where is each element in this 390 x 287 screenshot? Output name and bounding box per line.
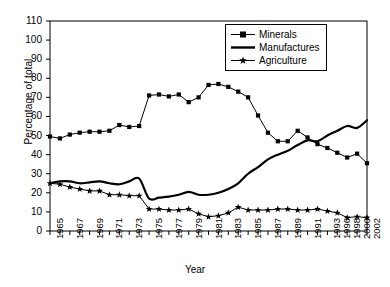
data-point-marker: [266, 131, 270, 135]
y-tick-label: 30: [12, 168, 42, 179]
y-tick-label: 10: [12, 206, 42, 217]
x-tick-label: 1981: [213, 225, 224, 239]
data-point-marker: [96, 187, 103, 193]
x-tick-label: 1969: [94, 225, 105, 239]
data-point-marker: [136, 192, 143, 198]
data-point-marker: [296, 129, 300, 133]
data-point-marker: [116, 191, 123, 197]
data-point-marker: [157, 92, 161, 96]
data-point-marker: [275, 206, 282, 212]
data-point-marker: [236, 90, 240, 94]
x-tick-label: 1987: [272, 225, 283, 239]
data-point-marker: [187, 100, 191, 104]
data-point-marker: [246, 95, 250, 99]
data-point-marker: [106, 191, 113, 197]
data-point-marker: [137, 124, 141, 128]
data-point-marker: [315, 142, 319, 146]
y-tick-label: 20: [12, 187, 42, 198]
legend-item-minerals: Minerals: [230, 28, 320, 41]
data-point-marker: [78, 131, 82, 135]
legend-label: Agriculture: [256, 55, 307, 66]
series-line: [50, 84, 367, 163]
agriculture-line-swatch-icon: [230, 54, 256, 67]
data-point-marker: [48, 134, 52, 138]
data-point-marker: [255, 207, 262, 213]
series-minerals: [48, 82, 369, 165]
y-tick-label: 70: [12, 91, 42, 102]
x-tick-label: 1975: [153, 225, 164, 239]
x-tick-label: 1967: [74, 225, 85, 239]
data-point-marker: [265, 207, 272, 213]
data-point-marker: [335, 151, 339, 155]
x-tick-label: 1985: [252, 225, 263, 239]
legend-item-agriculture: Agriculture: [230, 54, 320, 67]
data-point-marker: [276, 139, 280, 143]
legend-label: Manufactures: [256, 42, 320, 53]
data-point-marker: [107, 129, 111, 133]
data-point-marker: [345, 155, 349, 159]
data-point-marker: [167, 94, 171, 98]
data-point-marker: [226, 85, 230, 89]
minerals-line-swatch-icon: [230, 28, 256, 41]
x-tick-label: 1973: [133, 225, 144, 239]
data-point-marker: [355, 152, 359, 156]
y-tick-label: 60: [12, 110, 42, 121]
x-tick-label: 2002: [371, 225, 382, 239]
data-point-marker: [216, 82, 220, 86]
x-tick-label: 1965: [54, 225, 65, 239]
chart-container: Percentage of total Year 010203040506070…: [0, 0, 390, 287]
data-point-marker: [126, 192, 133, 198]
data-point-marker: [196, 95, 200, 99]
data-point-marker: [324, 207, 331, 213]
data-point-marker: [206, 83, 210, 87]
data-point-marker: [175, 207, 182, 213]
x-tick-label: 1971: [113, 225, 124, 239]
data-point-marker: [117, 123, 121, 127]
y-tick-label: 0: [12, 225, 42, 236]
data-point-marker: [66, 184, 73, 190]
legend: Minerals Manufactures Agriculture: [225, 24, 327, 71]
y-tick-label: 50: [12, 130, 42, 141]
data-point-marker: [256, 113, 260, 117]
data-point-marker: [185, 206, 192, 212]
data-point-marker: [305, 135, 309, 139]
data-point-marker: [314, 206, 321, 212]
x-tick-label: 1977: [173, 225, 184, 239]
manufactures-line-swatch-icon: [230, 41, 256, 54]
x-tick-label: 1979: [193, 225, 204, 239]
data-point-marker: [147, 93, 151, 97]
y-tick-label: 40: [12, 149, 42, 160]
x-tick-label: 1989: [292, 225, 303, 239]
data-point-marker: [58, 136, 62, 140]
data-point-marker: [156, 206, 163, 212]
y-tick-label: 80: [12, 72, 42, 83]
data-point-marker: [68, 132, 72, 136]
data-point-marker: [286, 139, 290, 143]
legend-item-manufactures: Manufactures: [230, 41, 320, 54]
data-point-marker: [325, 146, 329, 150]
data-point-marker: [294, 207, 301, 213]
data-point-marker: [284, 206, 291, 212]
series-line: [50, 183, 367, 217]
data-point-marker: [127, 125, 131, 129]
y-tick-label: 100: [12, 34, 42, 45]
x-tick-label: 1983: [232, 225, 243, 239]
y-tick-label: 90: [12, 53, 42, 64]
x-tick-label: 1991: [312, 225, 323, 239]
data-point-marker: [304, 207, 311, 213]
data-point-marker: [166, 207, 173, 213]
data-point-marker: [86, 187, 93, 193]
data-point-marker: [88, 130, 92, 134]
legend-label: Minerals: [256, 29, 297, 40]
data-point-marker: [245, 207, 252, 213]
data-point-marker: [177, 92, 181, 96]
y-tick-label: 110: [12, 15, 42, 26]
data-point-marker: [76, 186, 83, 192]
series-agriculture: [47, 180, 371, 221]
data-point-marker: [195, 210, 202, 216]
data-point-marker: [235, 204, 242, 210]
data-point-marker: [365, 161, 369, 165]
data-point-marker: [205, 213, 212, 219]
data-point-marker: [225, 209, 232, 215]
plot-area: [0, 0, 390, 287]
